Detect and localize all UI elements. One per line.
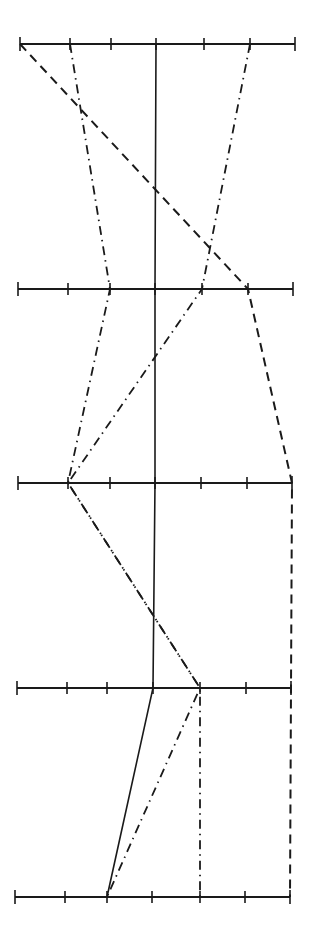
axis-4 — [17, 681, 291, 695]
chart-canvas — [0, 0, 312, 952]
series-solid — [107, 44, 156, 897]
series-dash-dot-a — [68, 44, 200, 897]
parallel-coordinates-chart — [0, 0, 312, 952]
axis-5 — [15, 890, 290, 904]
axis-1 — [20, 37, 295, 51]
series-dash-dot-b — [68, 44, 250, 897]
series-layer — [20, 44, 292, 897]
